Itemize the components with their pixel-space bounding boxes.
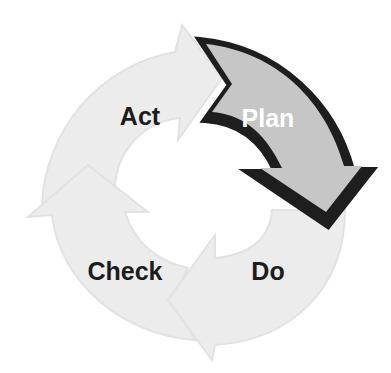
- do-arrow-shape: [168, 210, 345, 360]
- pdca-cycle-diagram: Act Check Do Plan: [0, 0, 391, 373]
- plan-label: Plan: [242, 104, 295, 132]
- check-label: Check: [87, 257, 162, 285]
- do-arrow[interactable]: Do: [168, 210, 345, 360]
- do-label: Do: [251, 257, 284, 285]
- act-label: Act: [120, 102, 161, 130]
- plan-arrow[interactable]: Plan: [200, 40, 372, 226]
- act-arrow[interactable]: Act: [42, 25, 222, 205]
